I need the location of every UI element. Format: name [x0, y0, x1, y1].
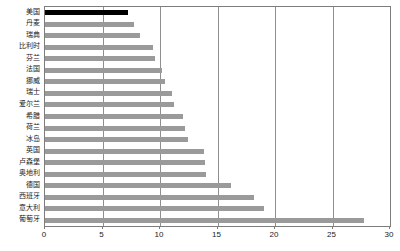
- bar-row: [45, 160, 390, 165]
- category-label: 冰岛: [26, 135, 40, 143]
- category-axis-labels: 美国丹麦瑞典比利时芬兰法国挪威瑞士爱尔兰希腊荷兰冰岛英国卢森堡奥地利德国西班牙意…: [0, 6, 42, 225]
- plot-area: [44, 6, 391, 227]
- bar-row: [45, 137, 390, 142]
- category-label: 瑞典: [26, 31, 40, 39]
- bar-default: [45, 114, 183, 119]
- xtick-mark-5: [102, 226, 103, 229]
- bar-row: [45, 126, 390, 131]
- category-label: 葡萄牙: [19, 215, 40, 223]
- category-label: 德国: [26, 181, 40, 189]
- xtick-label: 0: [42, 230, 46, 239]
- bar-row: [45, 102, 390, 107]
- category-label: 瑞士: [26, 88, 40, 96]
- category-label: 挪威: [26, 77, 40, 85]
- bar-default: [45, 33, 140, 38]
- bar-default: [45, 102, 174, 107]
- bar-row: [45, 10, 390, 15]
- bar-default: [45, 45, 153, 50]
- category-label: 丹麦: [26, 19, 40, 27]
- category-label: 意大利: [19, 204, 40, 212]
- category-label: 英国: [26, 146, 40, 154]
- category-label: 希腊: [26, 112, 40, 120]
- bar-default: [45, 172, 206, 177]
- category-label: 爱尔兰: [19, 100, 40, 108]
- bar-row: [45, 149, 390, 154]
- bar-default: [45, 126, 185, 131]
- xtick-mark-30: [389, 226, 390, 229]
- category-label: 西班牙: [19, 192, 40, 200]
- bar-rows: [45, 7, 390, 226]
- bar-default: [45, 56, 155, 61]
- xtick-label: 5: [99, 230, 103, 239]
- xtick-label: 20: [270, 230, 279, 239]
- bar-row: [45, 172, 390, 177]
- bar-highlighted: [45, 10, 128, 15]
- bar-row: [45, 91, 390, 96]
- bar-default: [45, 149, 204, 154]
- bar-row: [45, 68, 390, 73]
- bar-row: [45, 195, 390, 200]
- value-axis: 051015202530: [44, 226, 389, 246]
- bar-default: [45, 160, 205, 165]
- xtick-label: 10: [155, 230, 164, 239]
- xtick-label: 15: [212, 230, 221, 239]
- bar-row: [45, 183, 390, 188]
- bar-default: [45, 91, 172, 96]
- category-label: 美国: [26, 8, 40, 16]
- bar-row: [45, 22, 390, 27]
- xtick-mark-20: [274, 226, 275, 229]
- category-label: 芬兰: [26, 54, 40, 62]
- bar-row: [45, 79, 390, 84]
- bar-default: [45, 22, 134, 27]
- bar-row: [45, 218, 390, 223]
- category-label: 奥地利: [19, 169, 40, 177]
- bar-default: [45, 183, 231, 188]
- bar-default: [45, 206, 264, 211]
- xtick-mark-25: [332, 226, 333, 229]
- xtick-mark-0: [44, 226, 45, 229]
- bar-default: [45, 218, 364, 223]
- bar-default: [45, 79, 165, 84]
- xtick-label: 30: [385, 230, 394, 239]
- bar-default: [45, 195, 254, 200]
- bar-row: [45, 56, 390, 61]
- category-label: 卢森堡: [19, 158, 40, 166]
- xtick-mark-15: [217, 226, 218, 229]
- category-label: 法国: [26, 65, 40, 73]
- bar-default: [45, 137, 188, 142]
- xtick-label: 25: [327, 230, 336, 239]
- category-label: 荷兰: [26, 123, 40, 131]
- bar-row: [45, 45, 390, 50]
- category-label: 比利时: [19, 42, 40, 50]
- bar-chart: 美国丹麦瑞典比利时芬兰法国挪威瑞士爱尔兰希腊荷兰冰岛英国卢森堡奥地利德国西班牙意…: [0, 0, 400, 251]
- bar-row: [45, 33, 390, 38]
- bar-default: [45, 68, 162, 73]
- bar-row: [45, 206, 390, 211]
- bar-row: [45, 114, 390, 119]
- xtick-mark-10: [159, 226, 160, 229]
